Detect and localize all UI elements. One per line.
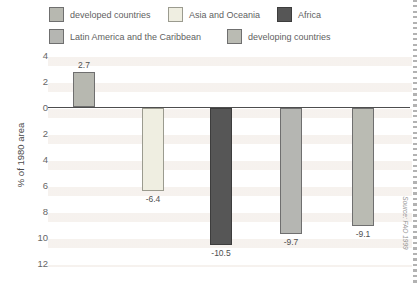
bar-value-label: 2.7 [63, 60, 105, 70]
legend-label: developing countries [248, 32, 331, 42]
y-tick-label: 0 [8, 102, 48, 113]
bar-africa [210, 108, 232, 245]
legend-swatch-icon [168, 7, 183, 22]
y-tick-label: 2 [8, 128, 48, 139]
bar-value-label: -6.4 [132, 194, 174, 204]
legend-item-latin-america-and-the-caribbean: Latin America and the Caribbean [49, 29, 201, 44]
bar-developed-countries [73, 72, 95, 107]
page: { "legend": { "items": [ { "label": "dev… [0, 0, 420, 286]
y-tick-label: 2 [8, 76, 48, 87]
y-tick-label: 10 [8, 232, 48, 243]
legend-label: Asia and Oceania [189, 10, 260, 20]
legend-item-developed-countries: developed countries [49, 7, 151, 22]
chart-panel: developed countriesAsia and OceaniaAfric… [0, 0, 420, 286]
legend-label: Latin America and the Caribbean [70, 32, 201, 42]
bar-value-label: -9.7 [270, 237, 312, 247]
bar-developing-countries [352, 108, 374, 226]
legend-swatch-icon [277, 7, 292, 22]
bar-value-label: -9.1 [342, 229, 384, 239]
legend-swatch-icon [227, 29, 242, 44]
bar-value-label: -10.5 [200, 248, 242, 258]
y-tick-label: 8 [8, 206, 48, 217]
bar-latin-america-and-the-caribbean [280, 108, 302, 234]
y-tick-label: 6 [8, 180, 48, 191]
legend-item-asia-and-oceania: Asia and Oceania [168, 7, 260, 22]
legend-swatch-icon [49, 7, 64, 22]
page-edge-dots-icon [413, 0, 417, 286]
legend-swatch-icon [49, 29, 64, 44]
legend-item-developing-countries: developing countries [227, 29, 331, 44]
legend-item-africa: Africa [277, 7, 321, 22]
source-note: Source: FAO 1999 [402, 196, 409, 249]
legend-label: developed countries [70, 10, 151, 20]
y-tick-label: 4 [8, 50, 48, 61]
y-tick-label: 4 [8, 154, 48, 165]
legend-label: Africa [298, 10, 321, 20]
y-tick-label: 12 [8, 258, 48, 269]
bar-asia-and-oceania [142, 108, 164, 191]
